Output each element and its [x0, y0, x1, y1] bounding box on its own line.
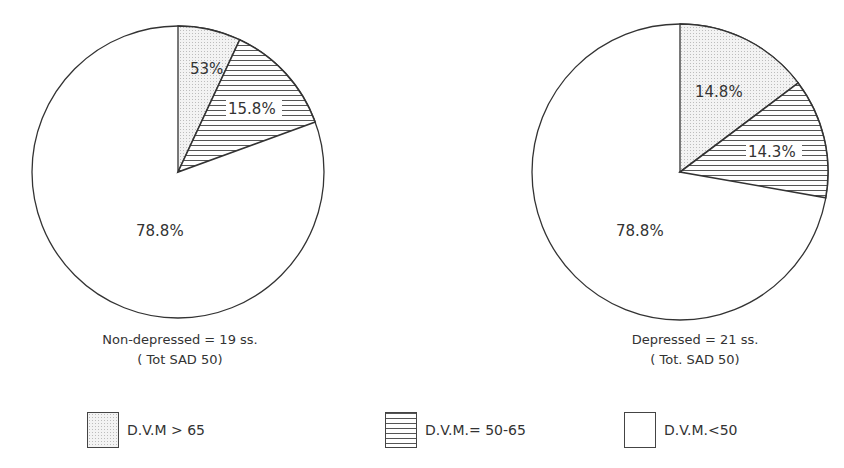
legend-label: D.V.M > 65 [127, 422, 205, 438]
label-blank: 78.8% [136, 222, 184, 240]
legend-swatch-blank [624, 412, 656, 448]
legend-swatch-dotted [87, 412, 119, 448]
caption-subtitle: ( Tot. SAD 50) [575, 350, 815, 370]
caption-title: Depressed = 21 ss. [575, 330, 815, 350]
legend-item-hatched: D.V.M.= 50-65 [385, 412, 526, 448]
label-blank: 78.8% [616, 222, 664, 240]
legend-swatch-hatched [385, 412, 417, 448]
caption-depressed: Depressed = 21 ss. ( Tot. SAD 50) [575, 330, 815, 370]
legend-label: D.V.M.= 50-65 [425, 422, 526, 438]
caption-title: Non-depressed = 19 ss. [60, 330, 300, 350]
legend-label: D.V.M.<50 [664, 422, 738, 438]
label-dotted: 53% [190, 60, 223, 78]
caption-subtitle: ( Tot SAD 50) [60, 350, 300, 370]
label-dotted: 14.8% [695, 83, 743, 101]
legend-item-blank: D.V.M.<50 [624, 412, 738, 448]
label-hatched: 14.3% [748, 143, 796, 161]
legend-item-dotted: D.V.M > 65 [87, 412, 205, 448]
pie-non-depressed: 53% 15.8% 78.8% [32, 26, 324, 318]
pie-depressed: 14.8% 14.3% 78.8% [532, 24, 828, 320]
caption-non-depressed: Non-depressed = 19 ss. ( Tot SAD 50) [60, 330, 300, 370]
label-hatched: 15.8% [228, 100, 276, 118]
charts-canvas: 53% 15.8% 78.8% 14.8% 14.3% 78.8% [0, 0, 844, 468]
